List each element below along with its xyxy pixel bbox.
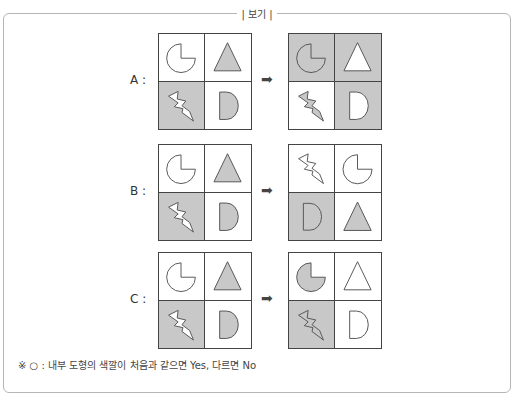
grid-cell <box>205 82 251 130</box>
before-grid <box>158 144 252 241</box>
pie-icon <box>159 145 204 192</box>
bolt-icon <box>289 82 334 130</box>
grid-cell <box>205 34 251 82</box>
pie-icon <box>335 145 381 192</box>
grid-cell <box>335 253 381 301</box>
triangle-icon <box>335 253 381 300</box>
before-grid <box>158 33 252 130</box>
example-header: | 보기 | <box>0 6 514 21</box>
after-grid <box>288 33 382 130</box>
pie-icon <box>159 34 204 81</box>
triangle-icon <box>205 145 251 192</box>
triangle-icon <box>335 34 381 81</box>
grid-cell <box>289 301 335 349</box>
grid-cell <box>289 34 335 82</box>
grid-cell <box>159 82 205 130</box>
pie-icon <box>289 34 334 81</box>
pie-icon <box>159 253 204 300</box>
grid-cell <box>159 34 205 82</box>
grid-cell <box>289 82 335 130</box>
bolt-icon <box>159 82 204 130</box>
d-icon <box>289 193 334 241</box>
arrow-right-icon: ➡ <box>261 290 273 306</box>
grid-cell <box>205 145 251 193</box>
grid-cell <box>335 301 381 349</box>
bolt-icon <box>159 193 204 241</box>
d-icon <box>205 301 251 349</box>
triangle-icon <box>335 193 381 241</box>
arrow-right-icon: ➡ <box>261 71 273 87</box>
d-icon <box>335 82 381 130</box>
row-label: B : <box>130 184 146 198</box>
bolt-icon <box>289 301 334 349</box>
grid-cell <box>335 193 381 241</box>
grid-cell <box>289 253 335 301</box>
grid-cell <box>289 145 335 193</box>
grid-cell <box>159 193 205 241</box>
d-icon <box>205 193 251 241</box>
grid-cell <box>159 145 205 193</box>
after-grid <box>288 144 382 241</box>
grid-cell <box>335 82 381 130</box>
grid-cell <box>159 253 205 301</box>
before-grid <box>158 252 252 349</box>
example-box <box>3 13 511 393</box>
grid-cell <box>205 193 251 241</box>
arrow-right-icon: ➡ <box>261 182 273 198</box>
after-grid <box>288 252 382 349</box>
triangle-icon <box>205 34 251 81</box>
d-icon <box>335 301 381 349</box>
d-icon <box>205 82 251 130</box>
bolt-icon <box>159 301 204 349</box>
grid-cell <box>159 301 205 349</box>
grid-cell <box>289 193 335 241</box>
pie-icon <box>289 253 334 300</box>
grid-cell <box>205 301 251 349</box>
bolt-icon <box>289 145 334 192</box>
grid-cell <box>205 253 251 301</box>
legend-note: ※ ○ : 내부 도형의 색깔이 처음과 같으면 Yes, 다르면 No <box>18 357 256 372</box>
triangle-icon <box>205 253 251 300</box>
grid-cell <box>335 34 381 82</box>
row-label: C : <box>130 292 146 306</box>
grid-cell <box>335 145 381 193</box>
row-label: A : <box>130 73 146 87</box>
